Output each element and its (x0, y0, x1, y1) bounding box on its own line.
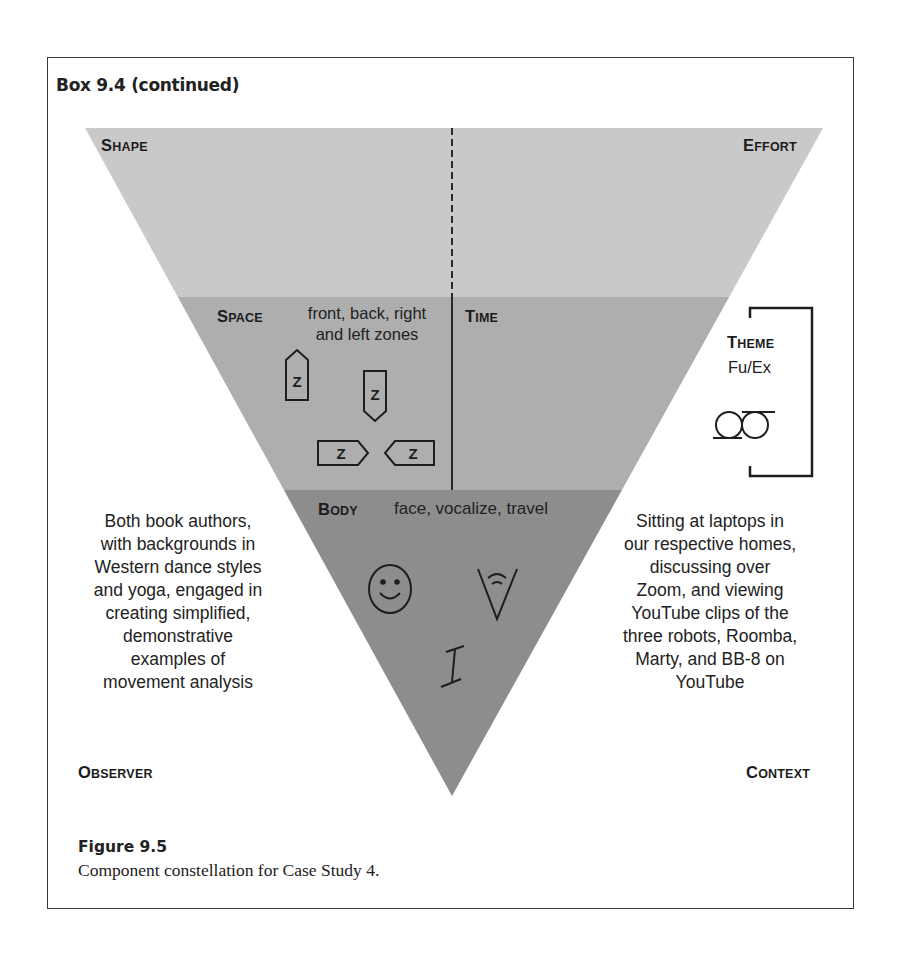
figure-caption: Component constellation for Case Study 4… (78, 860, 379, 881)
figure-label: Figure 9.5 (78, 838, 167, 856)
svg-text:Z: Z (292, 373, 301, 390)
label-effort: EFFORT (743, 136, 797, 155)
svg-text:Z: Z (336, 445, 345, 462)
function-expression-icon (713, 412, 775, 438)
label-context: CONTEXT (746, 763, 810, 782)
svg-text:Z: Z (370, 386, 379, 403)
svg-text:Z: Z (408, 445, 417, 462)
context-description: Sitting at laptops in our respective hom… (594, 510, 826, 694)
label-observer: OBSERVER (78, 763, 153, 782)
label-theme: THEME (727, 333, 774, 352)
space-description: front, back, right and left zones (286, 303, 448, 345)
observer-description: Both book authors, with backgrounds in W… (60, 510, 296, 694)
body-description: face, vocalize, travel (394, 497, 548, 520)
label-time: TIME (465, 307, 498, 326)
label-body: BODY (318, 500, 358, 519)
label-space: SPACE (217, 307, 263, 326)
theme-value: Fu/Ex (728, 356, 771, 379)
label-shape: SHAPE (101, 136, 148, 155)
